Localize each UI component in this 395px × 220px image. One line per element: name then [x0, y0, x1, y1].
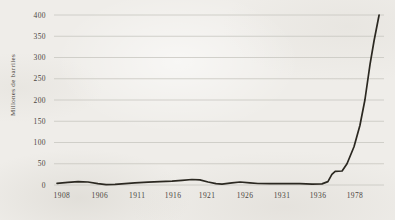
- x-tick-label: 1908: [54, 191, 71, 200]
- x-tick-label: 1936: [310, 191, 327, 200]
- y-tick-label: 50: [0, 159, 46, 168]
- scanned-page: Millones de barriles 0501001502002503003…: [0, 0, 395, 220]
- x-tick-label: 1978: [347, 191, 364, 200]
- oil-production-chart: Millones de barriles 0501001502002503003…: [0, 0, 395, 220]
- y-tick-label: 300: [0, 53, 46, 62]
- x-tick-label: 1906: [92, 191, 109, 200]
- y-tick-label: 100: [0, 138, 46, 147]
- x-tick-label: 1931: [274, 191, 291, 200]
- y-tick-label: 350: [0, 32, 46, 41]
- y-tick-label: 0: [0, 181, 46, 190]
- x-tick-label: 1911: [129, 191, 145, 200]
- y-tick-label: 200: [0, 96, 46, 105]
- plot-area: [0, 0, 395, 220]
- x-tick-label: 1916: [165, 191, 182, 200]
- y-tick-label: 150: [0, 117, 46, 126]
- x-tick-label: 1921: [199, 191, 216, 200]
- y-tick-label: 400: [0, 11, 46, 20]
- x-tick-label: 1926: [237, 191, 254, 200]
- y-tick-label: 250: [0, 74, 46, 83]
- y-axis-title: Millones de barriles: [9, 54, 17, 116]
